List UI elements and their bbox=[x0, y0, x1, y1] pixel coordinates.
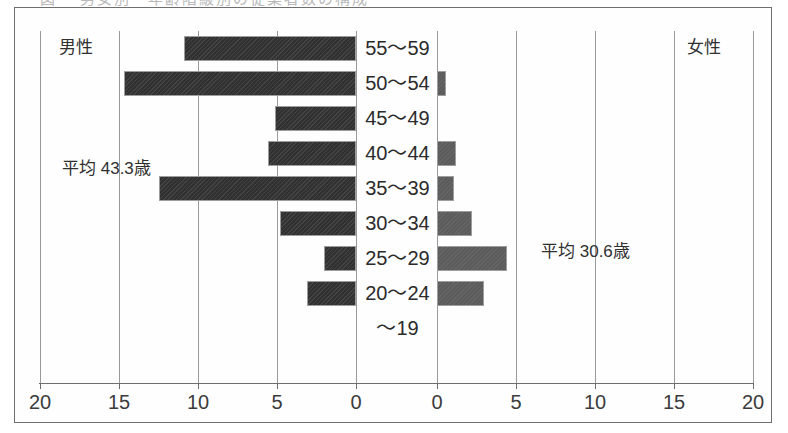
tick-label-male-15: 15 bbox=[99, 391, 139, 414]
age-group-label: 55～59 bbox=[357, 31, 438, 66]
tick-label-male-20: 20 bbox=[20, 391, 60, 414]
tick-label-female-5: 5 bbox=[496, 391, 536, 414]
tick-label-female-0: 0 bbox=[417, 391, 457, 414]
tick-male-15 bbox=[119, 383, 120, 389]
tick-label-female-20: 20 bbox=[733, 391, 773, 414]
tick-female-20 bbox=[753, 383, 754, 389]
bar-male-40～44 bbox=[268, 141, 356, 166]
bar-male-55～59 bbox=[184, 36, 356, 61]
bar-female-20～24 bbox=[437, 281, 484, 306]
tick-male-10 bbox=[198, 383, 199, 389]
bar-male-45～49 bbox=[275, 106, 356, 131]
tick-label-female-10: 10 bbox=[575, 391, 615, 414]
bar-female-40～44 bbox=[437, 141, 456, 166]
bar-female-30～34 bbox=[437, 211, 472, 236]
tick-female-5 bbox=[516, 383, 517, 389]
age-group-label: ～19 bbox=[357, 311, 438, 346]
age-group-label: 30～34 bbox=[357, 206, 438, 241]
tick-label-male-0: 0 bbox=[336, 391, 376, 414]
tick-male-20 bbox=[40, 383, 41, 389]
age-group-label: 25～29 bbox=[357, 241, 438, 276]
tick-label-male-10: 10 bbox=[178, 391, 218, 414]
pyramid-row: 25～29 bbox=[15, 241, 773, 276]
pyramid-row: 40～44 bbox=[15, 136, 773, 171]
bar-male-30～34 bbox=[280, 211, 356, 236]
population-pyramid-plot: 2015105005101520 男性 女性 平均 43.3歳 平均 30.6歳… bbox=[15, 8, 773, 424]
age-group-label: 40～44 bbox=[357, 136, 438, 171]
pyramid-row: ～19 bbox=[15, 311, 773, 346]
x-axis-line bbox=[39, 383, 753, 384]
bar-male-20～24 bbox=[307, 281, 356, 306]
age-group-label: 45～49 bbox=[357, 101, 438, 136]
pyramid-row: 55～59 bbox=[15, 31, 773, 66]
pyramid-row: 30～34 bbox=[15, 206, 773, 241]
tick-female-10 bbox=[595, 383, 596, 389]
bar-male-35～39 bbox=[159, 176, 357, 201]
tick-label-male-5: 5 bbox=[257, 391, 297, 414]
bar-female-25～29 bbox=[437, 246, 507, 271]
tick-female-15 bbox=[674, 383, 675, 389]
bar-female-50～54 bbox=[437, 71, 446, 96]
chart-frame: 2015105005101520 男性 女性 平均 43.3歳 平均 30.6歳… bbox=[14, 7, 772, 423]
cut-off-caption-strip: 図 男女別・年齢階級別の従業者数の構成 bbox=[0, 0, 788, 6]
bar-male-25～29 bbox=[324, 246, 356, 271]
bar-male-50～54 bbox=[124, 71, 356, 96]
pyramid-row: 35～39 bbox=[15, 171, 773, 206]
bar-female-35～39 bbox=[437, 176, 454, 201]
age-group-label: 35～39 bbox=[357, 171, 438, 206]
tick-male-0 bbox=[356, 383, 357, 389]
pyramid-row: 50～54 bbox=[15, 66, 773, 101]
tick-label-female-15: 15 bbox=[654, 391, 694, 414]
tick-male-5 bbox=[277, 383, 278, 389]
cut-off-caption-text: 図 男女別・年齢階級別の従業者数の構成 bbox=[40, 0, 369, 6]
pyramid-row: 20～24 bbox=[15, 276, 773, 311]
pyramid-row: 45～49 bbox=[15, 101, 773, 136]
tick-female-0 bbox=[437, 383, 438, 389]
age-group-label: 50～54 bbox=[357, 66, 438, 101]
age-group-label: 20～24 bbox=[357, 276, 438, 311]
